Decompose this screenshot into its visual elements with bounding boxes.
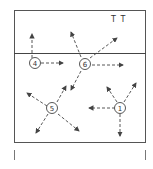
svg-text:5: 5	[50, 105, 54, 113]
node-1: 1	[115, 103, 126, 114]
arrow-1-upright	[124, 83, 136, 102]
arrow-1-upleft	[107, 87, 117, 102]
outer-frame	[15, 11, 146, 143]
arrow-5-upleft	[27, 93, 47, 106]
arrow-6-upright	[90, 38, 117, 58]
node-6: 6	[80, 59, 91, 70]
svg-text:4: 4	[33, 60, 38, 68]
arrow-5-downright	[58, 114, 79, 131]
node-4: 4	[30, 58, 41, 69]
arrow-5-downleft	[36, 114, 48, 133]
corner-label: T T	[110, 15, 126, 24]
arrow-5-up	[57, 86, 66, 102]
svg-text:6: 6	[83, 61, 88, 69]
node-5: 5	[47, 103, 58, 114]
diagram-canvas: T T 4 6 5 1	[0, 0, 153, 169]
svg-text:1: 1	[118, 105, 122, 113]
arrow-6-downleft	[71, 71, 81, 90]
